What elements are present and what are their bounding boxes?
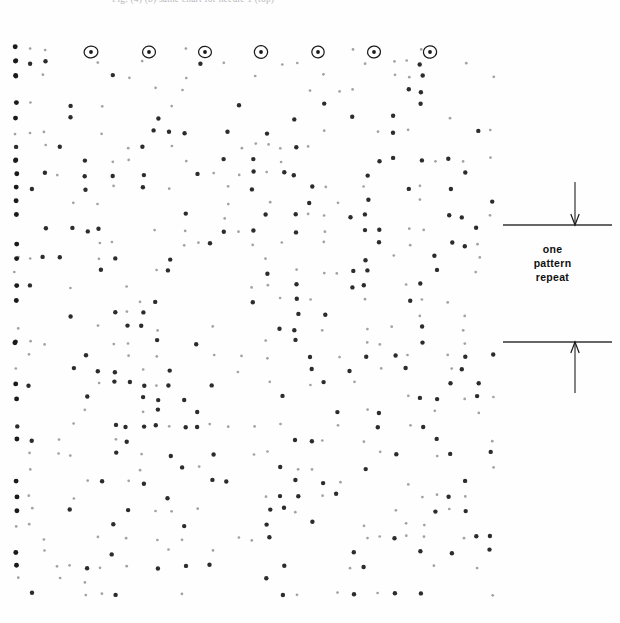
pattern-dot: [409, 244, 412, 247]
pattern-dot: [449, 117, 452, 120]
pattern-dot: [405, 534, 408, 537]
pattern-dot: [279, 297, 282, 300]
pattern-dot: [227, 425, 230, 428]
pattern-dot: [154, 510, 157, 513]
pattern-dot: [418, 62, 422, 66]
pattern-dot: [101, 105, 104, 108]
pattern-dot: [423, 524, 426, 527]
pattern-dot: [448, 452, 452, 456]
pattern-dot: [212, 172, 215, 175]
pattern-dot: [72, 201, 75, 204]
pattern-dot: [151, 128, 155, 132]
pattern-dot: [347, 369, 351, 373]
pattern-dot: [29, 468, 32, 471]
repeat-label-line-3: repeat: [500, 270, 605, 284]
pattern-dot: [195, 410, 199, 414]
ring-markers-layer: [84, 45, 438, 59]
pattern-dot: [183, 244, 186, 247]
pattern-dot: [113, 370, 117, 374]
pattern-dot: [85, 394, 89, 398]
pattern-dot: [169, 454, 173, 458]
pattern-dot: [84, 594, 87, 597]
pattern-dot: [294, 282, 298, 286]
pattern-dot: [282, 170, 286, 174]
pattern-dot: [142, 384, 146, 388]
pattern-dot: [337, 201, 340, 204]
pattern-dot: [224, 479, 228, 483]
pattern-dot: [420, 48, 423, 51]
pattern-dot: [142, 368, 145, 371]
pattern-dot: [110, 552, 114, 556]
pattern-dot: [323, 129, 326, 132]
pattern-dot: [379, 450, 382, 453]
pattern-dot: [405, 283, 408, 286]
pattern-dot: [28, 353, 31, 356]
pattern-dot: [487, 547, 491, 551]
pattern-dot: [407, 483, 410, 486]
pattern-dot: [170, 105, 173, 108]
pattern-dot: [251, 157, 255, 161]
pattern-dot: [419, 591, 423, 595]
pattern-dot: [30, 591, 34, 595]
pattern-dot: [464, 495, 467, 498]
pattern-dot: [213, 354, 216, 357]
pattern-dot: [111, 73, 115, 77]
pattern-dot-edge: [14, 283, 19, 288]
pattern-dot: [142, 410, 145, 413]
pattern-dot: [168, 368, 172, 372]
pattern-dot: [253, 453, 256, 456]
pattern-dot: [153, 300, 157, 304]
pattern-dot: [140, 145, 144, 149]
pattern-dot: [84, 581, 87, 584]
pattern-dot: [277, 327, 281, 331]
pattern-dot: [29, 340, 32, 343]
pattern-dot-edge: [13, 550, 18, 555]
pattern-dot: [58, 145, 62, 149]
pattern-dot: [265, 131, 269, 135]
pattern-dot: [464, 509, 468, 513]
pattern-dot: [253, 425, 256, 428]
pattern-dot: [352, 550, 356, 554]
pattern-dot: [292, 328, 296, 332]
pattern-dot: [463, 537, 466, 540]
pattern-dot: [265, 495, 268, 498]
pattern-dot: [462, 160, 465, 163]
pattern-dot: [405, 522, 408, 525]
pattern-dot: [128, 380, 132, 384]
pattern-dot: [250, 187, 254, 191]
pattern-dot: [418, 102, 422, 106]
pattern-dot-canvas: [12, 30, 504, 602]
pattern-dot: [463, 355, 467, 359]
pattern-dot: [14, 133, 17, 136]
pattern-dot: [418, 396, 422, 400]
pattern-dot: [433, 409, 436, 412]
pattern-dot: [322, 101, 326, 105]
pattern-dot: [447, 213, 451, 217]
pattern-dot: [363, 258, 367, 262]
pattern-dot: [241, 147, 244, 150]
pattern-dot: [184, 564, 188, 568]
pattern-dot: [408, 76, 411, 79]
pattern-dot: [295, 297, 299, 301]
pattern-dot: [478, 256, 481, 259]
pattern-dot: [407, 128, 410, 131]
pattern-dot: [240, 355, 243, 358]
pattern-dot: [309, 298, 312, 301]
pattern-dot: [43, 538, 46, 541]
pattern-dot: [254, 142, 257, 145]
ringed-dot-core: [203, 50, 207, 54]
pattern-dot: [43, 549, 46, 552]
pattern-dot: [278, 494, 282, 498]
pattern-dot: [250, 286, 253, 289]
pattern-dot-edge: [12, 340, 17, 345]
pattern-dot: [307, 145, 310, 148]
pattern-dot: [477, 412, 480, 415]
pattern-dot: [58, 255, 62, 259]
pattern-dot: [308, 355, 312, 359]
pattern-dot: [113, 310, 117, 314]
pattern-dot: [448, 381, 452, 385]
pattern-dot: [362, 283, 366, 287]
pattern-dot: [353, 380, 356, 383]
pattern-dot: [310, 439, 314, 443]
pattern-dot: [324, 186, 327, 189]
